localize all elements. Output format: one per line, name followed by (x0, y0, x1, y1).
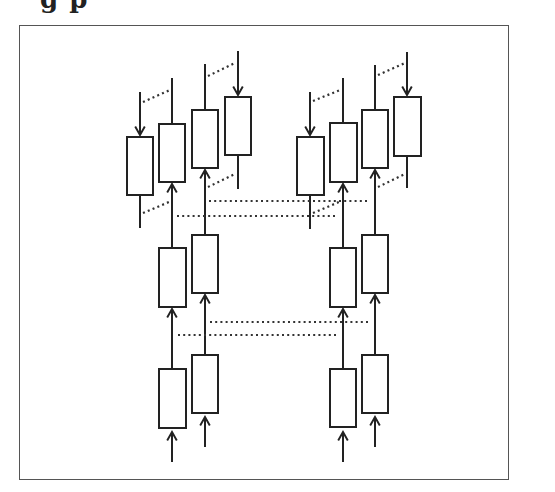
right-top-block-2 (330, 123, 357, 182)
left-top-block-1 (127, 137, 153, 195)
left-top-block-2 (159, 124, 185, 182)
right-middle-block-1 (330, 248, 356, 307)
right-dotted-connector (378, 174, 405, 187)
right-bottom-block-1 (330, 369, 356, 427)
left-middle-block-1 (159, 248, 186, 307)
diagram-root (127, 51, 421, 462)
left-dotted-connector (208, 174, 235, 187)
right-bottom-block-2 (362, 355, 388, 413)
right-dotted-connector (378, 63, 405, 75)
left-dotted-connector (143, 90, 170, 102)
right-top-block-1 (297, 137, 324, 195)
right-dotted-connector (313, 202, 339, 213)
left-dotted-connector (208, 63, 235, 76)
right-dotted-connector (313, 90, 340, 101)
left-bottom-block-1 (159, 369, 186, 428)
stacked-block-diagram (0, 0, 555, 492)
left-top-block-4 (225, 97, 251, 155)
left-bottom-block-2 (192, 355, 218, 413)
left-middle-block-2 (192, 235, 218, 293)
right-top-block-4 (394, 97, 421, 156)
left-top-block-3 (192, 110, 218, 168)
right-top-block-3 (362, 110, 388, 168)
right-middle-block-2 (362, 235, 388, 293)
left-dotted-connector (143, 202, 169, 213)
